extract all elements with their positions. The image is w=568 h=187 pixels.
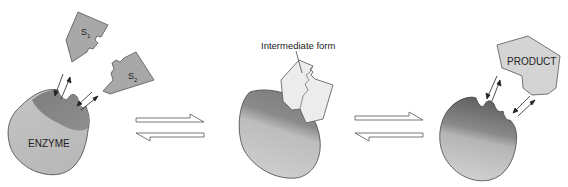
release-arrows-left	[486, 76, 501, 101]
enzyme-label: ENZYME	[28, 138, 70, 149]
reverse-arrow-icon	[355, 133, 423, 141]
stage-substrates-and-enzyme: ENZYME S1 S2	[8, 12, 154, 175]
product-label: PRODUCT	[507, 56, 556, 67]
stage-intermediate: Intermediate form	[239, 40, 335, 178]
stage-product-release: PRODUCT	[440, 36, 560, 181]
intermediate-callout: Intermediate form	[261, 40, 336, 51]
reverse-arrow-icon	[136, 133, 204, 141]
equilibrium-arrow-1	[136, 114, 204, 141]
enzyme-reaction-diagram: ENZYME S1 S2	[0, 0, 568, 187]
equilibrium-arrow-2	[355, 112, 423, 141]
release-arrows-right	[513, 96, 535, 116]
product-enzyme-shape	[440, 97, 517, 181]
forward-arrow-icon	[136, 114, 204, 122]
forward-arrow-icon	[355, 112, 423, 120]
